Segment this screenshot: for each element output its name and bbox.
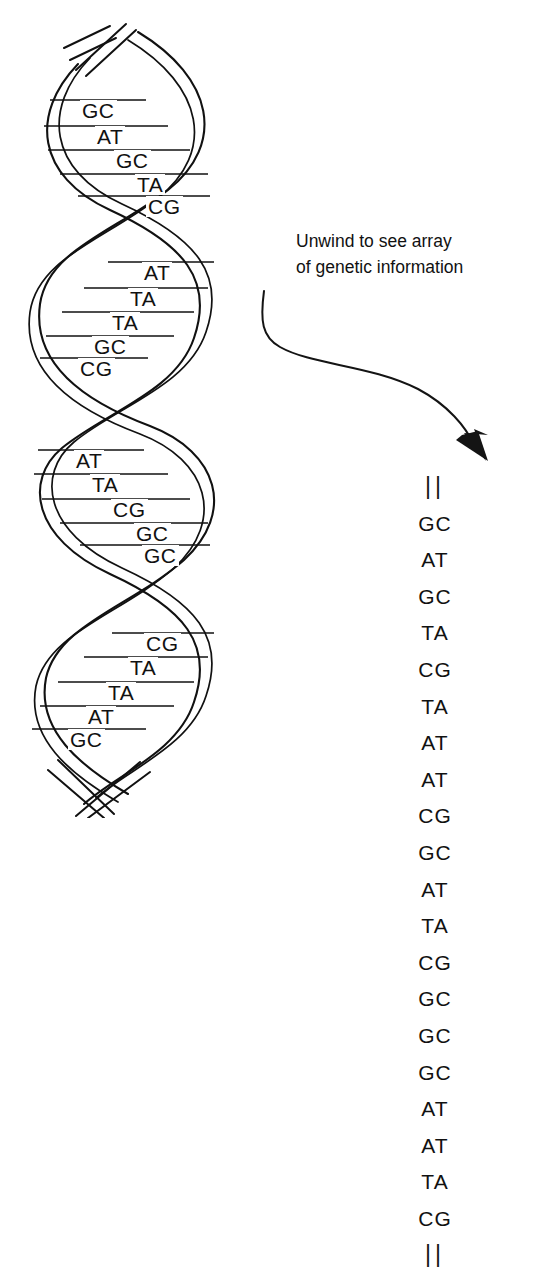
annotation-line-1: Unwind to see array	[296, 228, 546, 254]
sequence-item: GC	[398, 586, 472, 607]
sequence-item: AT	[398, 1098, 472, 1119]
base-pair-label: GC	[80, 100, 117, 121]
sequence-item: AT	[398, 549, 472, 570]
base-pair-label: TA	[110, 312, 140, 333]
base-pair-label: GC	[68, 729, 105, 750]
base-pair-label: TA	[90, 474, 120, 495]
base-pair-label: GC	[142, 545, 179, 566]
sequence-item: CG	[398, 805, 472, 826]
base-pair-label: AT	[86, 706, 116, 727]
sequence-item: GC	[398, 842, 472, 863]
base-pair-label: CG	[111, 499, 148, 520]
sequence-item: GC	[398, 513, 472, 534]
sequence-item: AT	[398, 1135, 472, 1156]
sequence-item: CG	[398, 659, 472, 680]
base-pair-label: GC	[134, 523, 171, 544]
base-pair-label: TA	[135, 174, 165, 195]
sequence-cap-bottom: ||	[398, 1244, 472, 1265]
base-pair-label: CG	[78, 358, 115, 379]
sequence-item: AT	[398, 732, 472, 753]
base-pair-label: TA	[128, 657, 158, 678]
base-pair-label: TA	[128, 288, 158, 309]
sequence-cap-top: ||	[398, 476, 472, 497]
sequence-item: TA	[398, 915, 472, 936]
base-pair-label: AT	[142, 262, 172, 283]
dna-double-helix-graphic	[18, 18, 258, 818]
sequence-item: GC	[398, 988, 472, 1009]
linear-base-sequence-list: || GC AT GC TA CG TA AT AT CG GC AT TA C…	[398, 476, 472, 1271]
annotation-line-2: of genetic information	[296, 254, 546, 280]
curved-arrow-icon	[250, 285, 500, 475]
base-pair-label: TA	[106, 682, 136, 703]
base-pair-label: AT	[74, 450, 104, 471]
sequence-item: TA	[398, 696, 472, 717]
base-pair-label: GC	[114, 150, 151, 171]
base-pair-label: CG	[146, 196, 183, 217]
sequence-item: GC	[398, 1025, 472, 1046]
sequence-item: TA	[398, 622, 472, 643]
sequence-item: TA	[398, 1171, 472, 1192]
base-pair-label: AT	[95, 126, 125, 147]
base-pair-label: GC	[92, 336, 129, 357]
annotation-caption: Unwind to see array of genetic informati…	[296, 228, 546, 280]
sequence-item: CG	[398, 952, 472, 973]
sequence-item: GC	[398, 1062, 472, 1083]
sequence-item: CG	[398, 1208, 472, 1229]
base-pair-label: CG	[144, 633, 181, 654]
sequence-item: AT	[398, 879, 472, 900]
sequence-item: AT	[398, 769, 472, 790]
arrow-head-fill	[456, 431, 488, 461]
